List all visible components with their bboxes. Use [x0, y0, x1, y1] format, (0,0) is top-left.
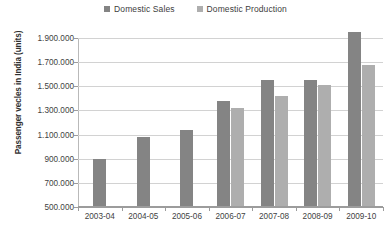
bar-groups: [78, 38, 383, 206]
y-axis-label: 500.000: [20, 203, 74, 212]
x-axis-tick: [252, 207, 253, 211]
y-axis-label: 1.300.000: [20, 106, 74, 115]
x-axis-tick: [122, 207, 123, 211]
bar-domestic-sales[interactable]: [261, 80, 274, 206]
y-axis-label: 900.000: [20, 154, 74, 163]
bar-domestic-production[interactable]: [275, 96, 288, 206]
y-axis-label: 1.100.000: [20, 130, 74, 139]
x-axis-tick: [339, 207, 340, 211]
x-axis-label: 2006-07: [215, 212, 245, 221]
bar-domestic-sales[interactable]: [217, 101, 230, 206]
plot-area: [78, 38, 383, 207]
legend-swatch-domestic-sales: [104, 6, 110, 12]
bar-group: [209, 38, 253, 206]
bar-domestic-production[interactable]: [231, 108, 244, 206]
bar-domestic-sales[interactable]: [180, 130, 193, 206]
x-axis-labels: 2003-042004-052005-062006-072007-082008-…: [78, 212, 383, 226]
y-axis-label: 1.500.000: [20, 82, 74, 91]
bar-domestic-sales[interactable]: [137, 137, 150, 206]
bar-chart: Domestic Sales Domestic Production Passe…: [0, 0, 391, 236]
x-axis-ticks: [78, 207, 383, 211]
legend-label-domestic-production: Domestic Production: [207, 4, 287, 14]
x-axis-tick: [383, 207, 384, 211]
x-axis-label: 2008-09: [303, 212, 333, 221]
x-axis-tick: [78, 207, 79, 211]
y-axis-label: 1.700.000: [20, 58, 74, 67]
x-axis-tick: [209, 207, 210, 211]
legend-entry-domestic-production: Domestic Production: [197, 4, 287, 14]
bar-domestic-sales[interactable]: [304, 80, 317, 206]
y-axis-label: 1.900.000: [20, 34, 74, 43]
bar-group: [339, 38, 383, 206]
y-axis-label: 700.000: [20, 178, 74, 187]
legend-label-domestic-sales: Domestic Sales: [114, 4, 174, 14]
x-axis-label: 2005-06: [172, 212, 202, 221]
bar-group: [296, 38, 340, 206]
y-axis-labels: 1.900.0001.700.0001.500.0001.300.0001.10…: [18, 38, 74, 207]
bar-group: [165, 38, 209, 206]
bar-domestic-sales[interactable]: [348, 32, 361, 206]
bar-group: [252, 38, 296, 206]
legend-entry-domestic-sales: Domestic Sales: [104, 4, 174, 14]
x-axis-label: 2004-05: [128, 212, 158, 221]
legend-swatch-domestic-production: [197, 6, 203, 12]
x-axis-tick: [165, 207, 166, 211]
x-axis-label: 2007-08: [259, 212, 289, 221]
x-axis-label: 2003-04: [85, 212, 115, 221]
bar-domestic-production[interactable]: [362, 65, 375, 206]
bar-group: [78, 38, 122, 206]
x-axis-label: 2009-10: [346, 212, 376, 221]
bar-group: [122, 38, 166, 206]
chart-legend: Domestic Sales Domestic Production: [0, 2, 391, 16]
bar-domestic-production[interactable]: [318, 85, 331, 206]
bar-domestic-sales[interactable]: [93, 159, 106, 206]
x-axis-tick: [296, 207, 297, 211]
